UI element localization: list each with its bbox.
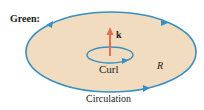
region-label: R xyxy=(157,61,163,71)
curl-label: Curl xyxy=(99,64,119,75)
k-vector-label: k xyxy=(116,30,122,40)
circulation-label: Circulation xyxy=(86,94,131,104)
title-label: Green: xyxy=(10,14,40,24)
